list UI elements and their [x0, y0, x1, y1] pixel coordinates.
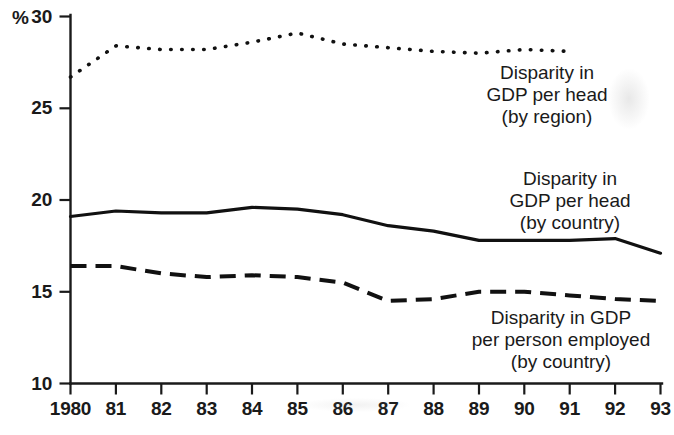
annotation-line: GDP per head — [440, 190, 674, 212]
x-axis-ticks — [71, 384, 661, 395]
x-tick-label-1993: 93 — [626, 398, 674, 420]
annotation-line: (by country) — [431, 351, 674, 373]
annotation-line: Disparity in — [417, 62, 674, 84]
annotation-line: Disparity in GDP — [431, 307, 674, 329]
y-tick-label-25: 25 — [0, 97, 52, 119]
annotation-label-country-employed: Disparity in GDPper person employed(by c… — [431, 307, 674, 373]
annotation-line: GDP per head — [417, 84, 674, 106]
annotation-label-region: Disparity inGDP per head(by region) — [417, 62, 674, 128]
y-tick-label-30: 30 — [0, 6, 52, 28]
annotation-line: (by country) — [440, 212, 674, 234]
annotation-line: per person employed — [431, 329, 674, 351]
y-tick-label-20: 20 — [0, 189, 52, 211]
series-line-country-employed-dashed — [71, 266, 661, 301]
annotation-line: (by region) — [417, 106, 674, 128]
annotation-label-country-head: Disparity inGDP per head(by country) — [440, 168, 674, 234]
y-tick-label-10: 10 — [0, 373, 52, 395]
y-tick-label-15: 15 — [0, 281, 52, 303]
y-axis-ticks — [60, 17, 71, 384]
chart-figure: % 1015202530 198081828384858687888990919… — [0, 0, 674, 435]
annotation-line: Disparity in — [440, 168, 674, 190]
